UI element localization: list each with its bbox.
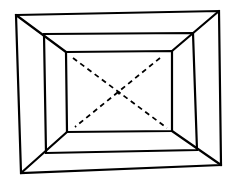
- frustum-diagram: [0, 0, 236, 184]
- corner-edge: [172, 11, 219, 51]
- center-point: [117, 91, 120, 94]
